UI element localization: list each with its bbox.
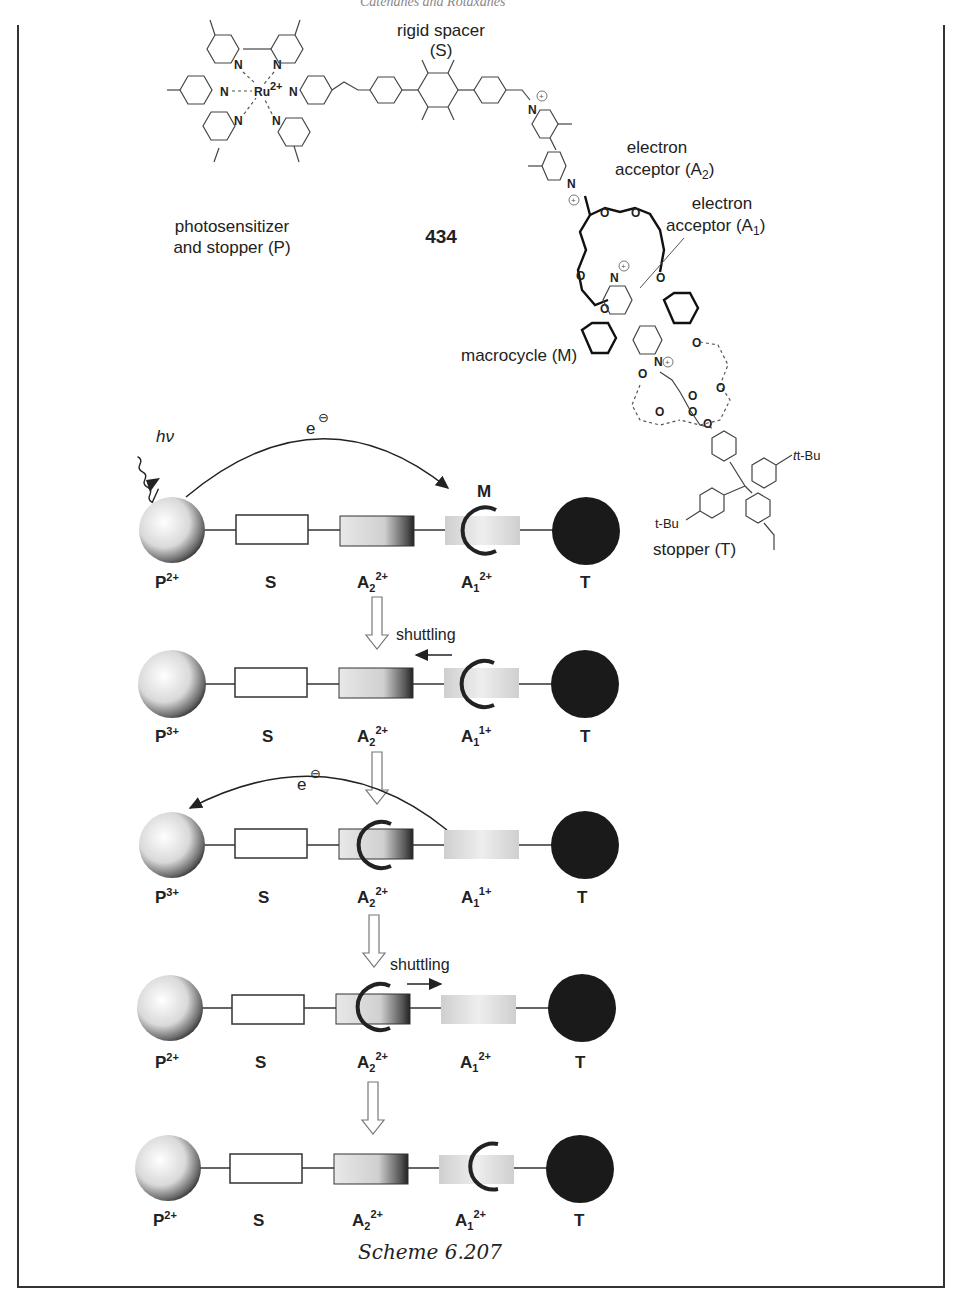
svg-text:A22+: A22+ bbox=[357, 724, 388, 748]
svg-text:O: O bbox=[655, 405, 664, 419]
svg-text:acceptor (A1): acceptor (A1) bbox=[666, 216, 765, 238]
svg-text:and stopper (P): and stopper (P) bbox=[173, 238, 290, 257]
svg-text:A22+: A22+ bbox=[357, 1050, 388, 1074]
svg-text:P2+: P2+ bbox=[155, 1051, 179, 1072]
svg-text:+: + bbox=[571, 196, 576, 205]
svg-text:acceptor (A2): acceptor (A2) bbox=[615, 160, 714, 182]
scheme-caption: Scheme 6.207 bbox=[358, 1240, 502, 1264]
svg-text:A12+: A12+ bbox=[455, 1208, 486, 1232]
svg-text:N: N bbox=[234, 58, 243, 72]
svg-text:A22+: A22+ bbox=[357, 570, 388, 594]
svg-text:S: S bbox=[258, 888, 269, 907]
label-rigid-spacer: rigid spacer bbox=[397, 21, 485, 40]
svg-text:A12+: A12+ bbox=[460, 1050, 491, 1074]
svg-text:A11+: A11+ bbox=[461, 724, 491, 748]
svg-text:S: S bbox=[253, 1211, 264, 1230]
svg-text:⊖: ⊖ bbox=[310, 766, 321, 781]
svg-text:A22+: A22+ bbox=[352, 1208, 383, 1232]
label-acceptor-a2: electron bbox=[627, 138, 687, 157]
svg-text:⊖: ⊖ bbox=[318, 410, 329, 425]
svg-text:P2+: P2+ bbox=[153, 1209, 177, 1230]
svg-text:N: N bbox=[654, 355, 663, 369]
compound-number: 434 bbox=[425, 226, 457, 247]
svg-text:S: S bbox=[265, 573, 276, 592]
svg-text:T: T bbox=[580, 727, 591, 746]
svg-text:O: O bbox=[688, 405, 697, 419]
svg-text:(S): (S) bbox=[430, 41, 453, 60]
svg-text:T: T bbox=[580, 573, 591, 592]
acceptor-A1 bbox=[445, 516, 520, 545]
svg-text:P2+: P2+ bbox=[155, 571, 179, 592]
svg-text:O: O bbox=[656, 271, 665, 285]
svg-text:N: N bbox=[610, 271, 619, 285]
svg-text:shuttling: shuttling bbox=[396, 626, 456, 643]
label-macrocycle: macrocycle (M) bbox=[461, 346, 577, 365]
svg-text:+: + bbox=[621, 262, 626, 271]
scheme-row-1: hν e ⊖ M P2+ S A22+ A12+ T bbox=[136, 410, 620, 594]
svg-text:N: N bbox=[289, 85, 298, 99]
svg-text:t-Bu: t-Bu bbox=[655, 516, 679, 531]
svg-text:A12+: A12+ bbox=[461, 570, 492, 594]
svg-text:N: N bbox=[567, 177, 576, 191]
label-acceptor-a1: electron bbox=[692, 194, 752, 213]
svg-text:e: e bbox=[306, 419, 315, 438]
molecule-434: Ru2+ N N N N N N bbox=[167, 20, 820, 559]
svg-text:O: O bbox=[576, 269, 585, 283]
svg-text:T: T bbox=[577, 888, 588, 907]
svg-text:M: M bbox=[477, 482, 491, 501]
label-photosensitizer: photosensitizer bbox=[175, 217, 290, 236]
svg-text:O: O bbox=[631, 206, 640, 220]
svg-text:O: O bbox=[688, 389, 697, 403]
stopper-T bbox=[552, 497, 620, 565]
svg-text:O: O bbox=[716, 381, 725, 395]
scheme-row-5: P2+ S A22+ A12+ T bbox=[135, 1135, 614, 1232]
svg-text:T: T bbox=[574, 1211, 585, 1230]
svg-text:S: S bbox=[255, 1053, 266, 1072]
label-stopper: stopper (T) bbox=[653, 540, 736, 559]
scheme-figure: Ru2+ N N N N N N bbox=[0, 0, 960, 1305]
svg-text:A22+: A22+ bbox=[357, 885, 388, 909]
acceptor-A2 bbox=[340, 516, 414, 546]
svg-text:N: N bbox=[272, 114, 281, 128]
svg-text:O: O bbox=[692, 336, 701, 350]
svg-text:+: + bbox=[539, 92, 544, 101]
svg-text:N: N bbox=[220, 85, 229, 99]
photosensitizer-P bbox=[139, 497, 205, 563]
svg-text:P3+: P3+ bbox=[155, 725, 179, 746]
svg-text:O: O bbox=[638, 367, 647, 381]
svg-text:O: O bbox=[703, 417, 712, 431]
svg-text:+: + bbox=[665, 358, 670, 367]
svg-text:S: S bbox=[262, 727, 273, 746]
scheme-row-4: shuttling P2+ S A22+ A12+ T bbox=[137, 956, 616, 1074]
hv-label: hν bbox=[156, 427, 174, 446]
svg-text:A11+: A11+ bbox=[461, 885, 491, 909]
svg-text:O: O bbox=[600, 206, 609, 220]
svg-text:e: e bbox=[297, 775, 306, 794]
svg-text:T: T bbox=[575, 1053, 586, 1072]
svg-text:P3+: P3+ bbox=[155, 886, 179, 907]
svg-text:shuttling: shuttling bbox=[390, 956, 450, 973]
spacer-S bbox=[236, 515, 308, 544]
svg-text:tt-Bu: tt-Bu bbox=[793, 448, 820, 463]
ru-atom: Ru2+ bbox=[254, 80, 283, 99]
svg-text:N: N bbox=[528, 103, 537, 117]
